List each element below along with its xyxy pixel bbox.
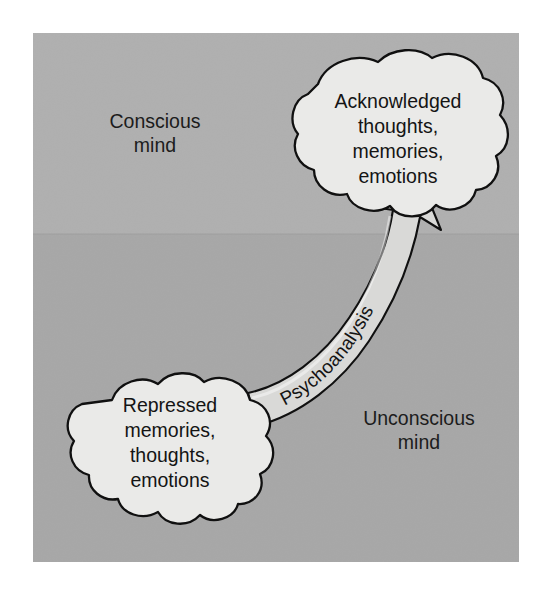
unconscious-label-line-2: mind	[398, 431, 440, 453]
acknowledged-cloud-line-3: memories,	[352, 140, 443, 162]
repressed-cloud-line-2: memories,	[124, 419, 215, 441]
repressed-cloud-line-3: thoughts,	[130, 444, 210, 466]
psychoanalysis-diagram: Conscious mind Unconscious mind Psychoan…	[0, 0, 547, 590]
acknowledged-cloud-line-2: thoughts,	[358, 115, 438, 137]
acknowledged-cloud-line-1: Acknowledged	[335, 90, 462, 112]
acknowledged-cloud-line-4: emotions	[358, 165, 437, 187]
conscious-label-line-2: mind	[134, 134, 176, 156]
repressed-cloud-line-4: emotions	[130, 469, 209, 491]
diagram-canvas: Conscious mind Unconscious mind Psychoan…	[0, 0, 547, 590]
conscious-label-line-1: Conscious	[109, 110, 200, 132]
repressed-cloud-line-1: Repressed	[123, 394, 217, 416]
unconscious-label-line-1: Unconscious	[363, 407, 475, 429]
